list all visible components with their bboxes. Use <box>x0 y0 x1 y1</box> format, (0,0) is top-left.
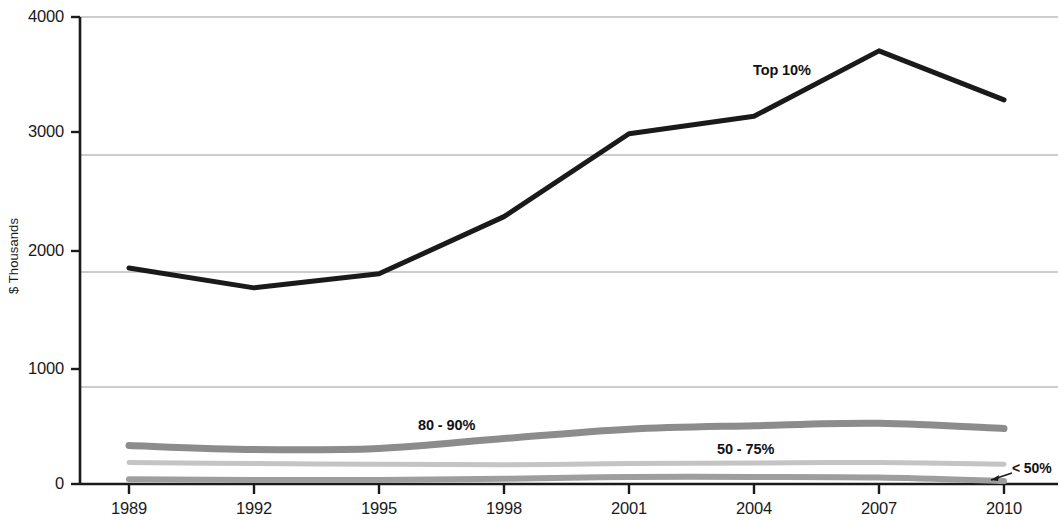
series-group <box>129 51 1004 481</box>
y-tick-label-3000: 3000 <box>6 122 64 141</box>
x-tick-label-2007: 2007 <box>839 499 919 518</box>
y-axis-ticks <box>71 17 80 484</box>
series-annotation-50-75: 50 - 75% <box>717 441 774 457</box>
y-tick-label-1000: 1000 <box>6 359 64 378</box>
y-tick-label-0: 0 <box>6 474 64 493</box>
x-tick-label-2004: 2004 <box>714 499 794 518</box>
line-chart: $ Thousands 4000 3000 2000 1000 0 1989 1… <box>0 0 1060 521</box>
x-tick-label-1989: 1989 <box>89 499 169 518</box>
series-annotation-80-90: 80 - 90% <box>418 417 475 433</box>
x-tick-label-1995: 1995 <box>339 499 419 518</box>
series-line-under-50 <box>129 477 1004 481</box>
y-tick-label-2000: 2000 <box>6 241 64 260</box>
series-line-50-75 <box>129 462 1004 464</box>
x-tick-label-1998: 1998 <box>464 499 544 518</box>
x-tick-label-1992: 1992 <box>214 499 294 518</box>
series-annotation-under-50: < 50% <box>1012 460 1052 476</box>
x-axis-ticks <box>129 484 1004 494</box>
chart-plot-area <box>0 0 1060 521</box>
series-line-80-90 <box>129 423 1004 450</box>
x-tick-label-2010: 2010 <box>964 499 1044 518</box>
gridlines <box>80 17 1058 387</box>
y-tick-label-4000: 4000 <box>6 7 64 26</box>
series-line-top-10 <box>129 51 1004 288</box>
series-annotation-top-10: Top 10% <box>753 62 811 78</box>
x-tick-label-2001: 2001 <box>589 499 669 518</box>
